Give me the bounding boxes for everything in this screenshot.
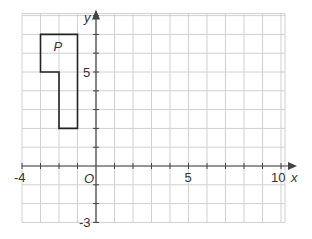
x-tick-label-neg4: -4 xyxy=(14,170,26,185)
x-tick-label-10: 10 xyxy=(271,170,285,185)
x-axis-label: x xyxy=(290,170,298,185)
y-tick-label-neg3: -3 xyxy=(79,215,91,230)
x-tick-label-5: 5 xyxy=(185,170,192,185)
origin-label: O xyxy=(84,171,94,186)
axes xyxy=(22,10,297,223)
shape-p-label: P xyxy=(53,39,62,54)
y-axis-label: y xyxy=(83,10,92,25)
coordinate-grid: P x y O -4 5 10 5 -3 xyxy=(0,0,312,239)
y-tick-label-5: 5 xyxy=(83,65,90,80)
